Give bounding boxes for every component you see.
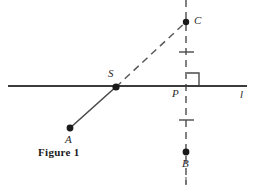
figure-caption: Figure 1 [38,147,80,158]
point-label-B: B [182,158,189,169]
point-label-S: S [108,68,114,79]
point-label-A: A [65,134,72,145]
point-label-C: C [194,15,201,26]
segment-a-to-s [70,85,118,128]
point-dot-A [67,125,74,132]
figure-container: C S P A B l Figure 1 [0,0,255,185]
line-label-l: l [240,89,243,100]
point-dot-C [183,19,189,25]
right-angle-marker [187,73,199,86]
point-label-P: P [172,88,179,99]
point-dot-S [112,83,119,90]
point-dot-B [183,149,190,156]
dashed-ray-s-to-c [116,20,188,87]
